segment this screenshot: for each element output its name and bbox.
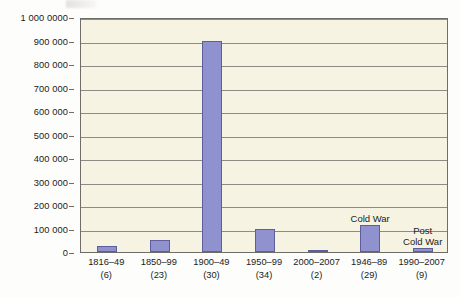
- y-tick-label: 600 000: [34, 107, 68, 117]
- y-tick-label: 300 000: [34, 178, 68, 188]
- y-tick-mark: [69, 183, 74, 184]
- scan-artifact: [66, 0, 96, 8]
- y-tick-mark: [69, 18, 74, 19]
- bar: [202, 41, 222, 253]
- y-tick-mark: [69, 206, 74, 207]
- x-tick-count: (2): [293, 269, 340, 282]
- y-tick-label: 100 000: [34, 225, 68, 235]
- x-tick-label: 1816–49(6): [88, 256, 124, 281]
- y-tick-mark: [69, 136, 74, 137]
- y-tick-label: 0: [63, 248, 68, 258]
- y-tick-label: 800 000: [34, 60, 68, 70]
- y-tick-mark: [69, 230, 74, 231]
- x-tick-period: 1816–49: [88, 257, 124, 267]
- x-tick-label: 1900–49(30): [193, 256, 229, 281]
- y-tick-mark: [69, 65, 74, 66]
- x-tick-label: 1990–2007(9): [398, 256, 445, 281]
- x-tick-period: 1950–99: [246, 257, 282, 267]
- x-tick-period: 1900–49: [193, 257, 229, 267]
- x-tick-count: (23): [141, 269, 177, 282]
- y-tick-mark: [69, 159, 74, 160]
- y-axis: 0100 000200 000300 000400 000500 000600 …: [0, 18, 74, 253]
- x-tick-label: 2000–2007(2): [293, 256, 340, 281]
- x-tick-period: 1850–99: [141, 257, 177, 267]
- x-axis: 1816–49(6)1850–99(23)1900–49(30)1950–99(…: [80, 256, 448, 296]
- x-tick-label: 1850–99(23): [141, 256, 177, 281]
- plot-area: Cold WarPost Cold War: [80, 18, 448, 253]
- x-tick-count: (29): [351, 269, 387, 282]
- y-tick-label: 1 000 0000: [20, 13, 68, 23]
- y-tick-mark: [69, 89, 74, 90]
- bar: [308, 250, 328, 252]
- x-tick-count: (9): [398, 269, 445, 282]
- chart-annotation: Post Cold War: [383, 225, 460, 247]
- y-tick-mark: [69, 42, 74, 43]
- bar: [150, 240, 170, 252]
- bar: [413, 248, 433, 252]
- bar-chart-figure: 0100 000200 000300 000400 000500 000600 …: [0, 0, 460, 297]
- y-tick-label: 200 000: [34, 201, 68, 211]
- x-tick-count: (6): [88, 269, 124, 282]
- y-tick-mark: [69, 253, 74, 254]
- y-tick-label: 400 000: [34, 154, 68, 164]
- y-tick-label: 500 000: [34, 131, 68, 141]
- x-tick-period: 2000–2007: [293, 257, 340, 267]
- x-tick-label: 1950–99(34): [246, 256, 282, 281]
- x-tick-period: 1946–89: [351, 257, 387, 267]
- x-tick-period: 1990–2007: [398, 257, 445, 267]
- x-tick-label: 1946–89(29): [351, 256, 387, 281]
- y-tick-mark: [69, 112, 74, 113]
- bar: [97, 246, 117, 252]
- y-tick-label: 900 000: [34, 37, 68, 47]
- bar: [255, 229, 275, 253]
- y-tick-label: 700 000: [34, 84, 68, 94]
- x-tick-count: (30): [193, 269, 229, 282]
- x-tick-count: (34): [246, 269, 282, 282]
- bar: [360, 225, 380, 252]
- chart-annotation: Cold War: [330, 213, 410, 224]
